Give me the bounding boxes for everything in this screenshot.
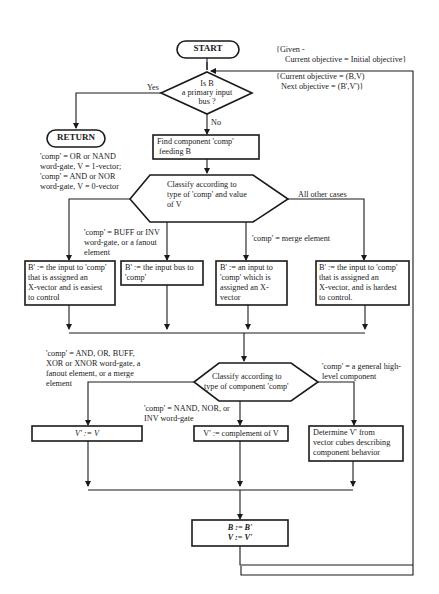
annotation-given-line1: {Given - [276,45,305,55]
box-input-bus-line1: B' := the input bus to [125,263,194,273]
find-component-line2: feeding B [159,147,191,157]
box-hardest-line3: X-vector, and is hardest [319,283,397,293]
edge-or-nand-line1: 'comp' = OR or NAND [40,152,116,162]
box-determine-line1: Determine V' from [313,428,375,438]
box-input-bus-line2: 'comp' [125,273,146,283]
box-easiest-line2: that is assigned an [28,273,88,283]
edge-and-or-buff-line4: element [46,379,72,389]
edge-and-or-buff-line1: 'comp' = AND, OR, BUFF, [46,349,135,359]
box-determine-line2: vector cubes describing [313,438,390,448]
edge-general-line2: level component [322,372,376,382]
edge-or-nand-line4: word-gate, V = 0-vector [40,182,119,192]
box-assign-line2: V := V' [192,533,288,543]
edge-buff-inv-line2: word-gate, or a fanout [84,238,157,248]
box-easiest-line3: X-vector and is easiest [28,283,102,293]
yes-label: Yes [147,83,159,93]
box-v-same-label: V' := V [32,429,142,439]
find-component-line1: Find component 'comp' [157,137,234,147]
edge-general-line1: 'comp' = a general high- [322,362,401,372]
classify2-line1: Classify according to [212,372,282,382]
classify2-line2: type of component 'comp' [204,382,289,392]
box-easiest-line4: to control [28,293,60,303]
classify1-line3: of V [167,200,182,210]
box-assign-line1: B := B' [192,523,288,533]
decision-line3: bus ? [167,97,247,107]
edge-buff-inv-line1: 'comp' = BUFF or INV [84,228,160,238]
box-determine-line3: component behavior [313,448,380,458]
edge-and-or-buff-line3: fanout element, or a merge [46,369,134,379]
box-an-input-line1: B' := an input to [220,263,273,273]
edge-and-or-buff-line2: XOR or XNOR word-gate, a [46,359,140,369]
box-an-input-line4: vector [220,293,240,303]
box-v-complement-label: V' := complement of V [194,429,288,439]
annotation-objective-line2: Next objective = (B',V')} [281,82,363,92]
edge-or-nand-line3: 'comp' = AND or NOR [40,172,115,182]
edge-merge: 'comp' = merge element [252,234,330,244]
edge-buff-inv-line3: element [84,248,110,258]
annotation-objective-line1: {Current objective = (B,V) [276,72,365,82]
box-an-input-line3: assigned an X- [220,283,269,293]
box-hardest-line2: that is assigned an [319,273,379,283]
edge-nand-nor-inv-line1: 'comp' = NAND, NOR, or [144,404,230,414]
box-hardest-line4: to control. [319,293,353,303]
edge-or-nand-line2: word-gate, V = 1-vector; [40,162,121,172]
classify1-line2: type of 'comp' and value [167,190,247,200]
return-label: RETURN [47,133,105,143]
box-an-input-line2: 'comp' which is [220,273,271,283]
annotation-given-line2: Current objective = Initial objective} [285,55,406,65]
edge-all-other: All other cases [298,190,347,200]
classify1-line1: Classify according to [167,180,237,190]
edge-nand-nor-inv-line2: INV word-gate [144,414,194,424]
box-hardest-line1: B' := the input to 'comp' [319,263,397,273]
box-easiest-line1: B' := the input to 'comp' [28,263,106,273]
start-label: START [177,44,239,54]
no-label: No [211,118,221,128]
